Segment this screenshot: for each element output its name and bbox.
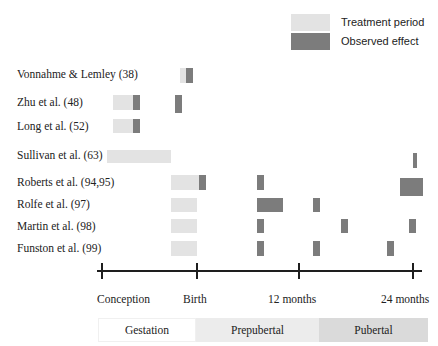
tick-24-months [412, 263, 414, 279]
tick-12-months [298, 263, 300, 279]
tick-label-conception: Conception [97, 293, 150, 305]
phase-prepubertal: Prepubertal [196, 318, 319, 342]
axis-line [97, 270, 422, 272]
tick-conception [101, 263, 103, 279]
treatment-bar [171, 198, 197, 212]
treatment-bar [107, 150, 171, 163]
effect-bar [186, 68, 193, 83]
study-label: Funston et al. (99) [17, 242, 101, 254]
study-label: Long et al. (52) [17, 120, 89, 132]
effect-bar [257, 219, 264, 233]
tick-label-12-months: 12 months [268, 293, 316, 305]
effect-bar [313, 241, 320, 256]
treatment-bar [113, 95, 133, 110]
effect-bar [341, 219, 348, 233]
effect-bar [175, 95, 182, 113]
treatment-bar [171, 241, 197, 256]
legend-swatch-effect [291, 33, 330, 50]
phase-pubertal: Pubertal [319, 318, 428, 342]
legend-swatch-treatment [291, 14, 330, 31]
tick-label-birth: Birth [183, 293, 207, 305]
legend-label-treatment: Treatment period [341, 16, 424, 28]
effect-bar [257, 175, 264, 190]
effect-bar [313, 198, 320, 212]
effect-bar [409, 219, 416, 233]
effect-bar [133, 119, 140, 133]
study-label: Vonnahme & Lemley (38) [17, 68, 138, 80]
study-label: Zhu et al. (48) [17, 96, 83, 108]
phase-gestation: Gestation [98, 318, 196, 342]
study-label: Martin et al. (98) [17, 220, 96, 232]
treatment-bar [171, 219, 197, 233]
treatment-bar [113, 119, 133, 133]
study-label: Sullivan et al. (63) [17, 149, 103, 161]
legend-label-effect: Observed effect [341, 35, 418, 47]
effect-bar [199, 175, 206, 190]
effect-bar [400, 178, 423, 196]
study-label: Roberts et al. (94,95) [17, 176, 114, 188]
tick-label-24-months: 24 months [381, 293, 429, 305]
study-label: Rolfe et al. (97) [17, 198, 90, 210]
treatment-bar [171, 175, 199, 190]
effect-bar [133, 95, 140, 110]
effect-bar [257, 241, 264, 256]
tick-birth [196, 263, 198, 279]
effect-bar [413, 153, 417, 168]
effect-bar [257, 198, 283, 212]
effect-bar [387, 241, 394, 256]
